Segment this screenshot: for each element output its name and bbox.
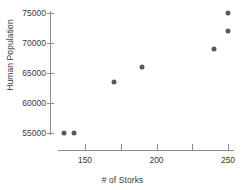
scatter-plot: Human Population # of Storks 55000600006…: [0, 0, 245, 190]
y-tick-label: 70000: [10, 38, 46, 48]
y-tick-label: 65000: [10, 68, 46, 78]
y-tick-mark: [47, 73, 54, 74]
x-tick-mark: [157, 144, 158, 151]
data-point: [71, 131, 76, 136]
y-tick-label-group: 5500060000650007000075000: [10, 0, 46, 190]
y-tick-mark: [47, 103, 54, 104]
data-point: [211, 47, 216, 52]
x-tick-mark: [192, 144, 193, 151]
y-tick-mark: [47, 43, 54, 44]
y-tick-label: 55000: [10, 128, 46, 138]
data-point: [61, 131, 66, 136]
x-tick-mark: [121, 144, 122, 151]
x-tick-label: 150: [78, 155, 92, 165]
y-tick-mark: [47, 133, 54, 134]
y-tick-mark: [47, 13, 54, 14]
x-tick-mark: [228, 144, 229, 151]
x-tick-mark: [85, 144, 86, 151]
data-point: [226, 11, 231, 16]
x-tick-label: 250: [221, 155, 235, 165]
x-tick-label: 200: [149, 155, 163, 165]
y-tick-label: 75000: [10, 8, 46, 18]
y-tick-label: 60000: [10, 98, 46, 108]
data-point: [111, 80, 116, 85]
data-point: [226, 29, 231, 34]
data-point: [140, 65, 145, 70]
